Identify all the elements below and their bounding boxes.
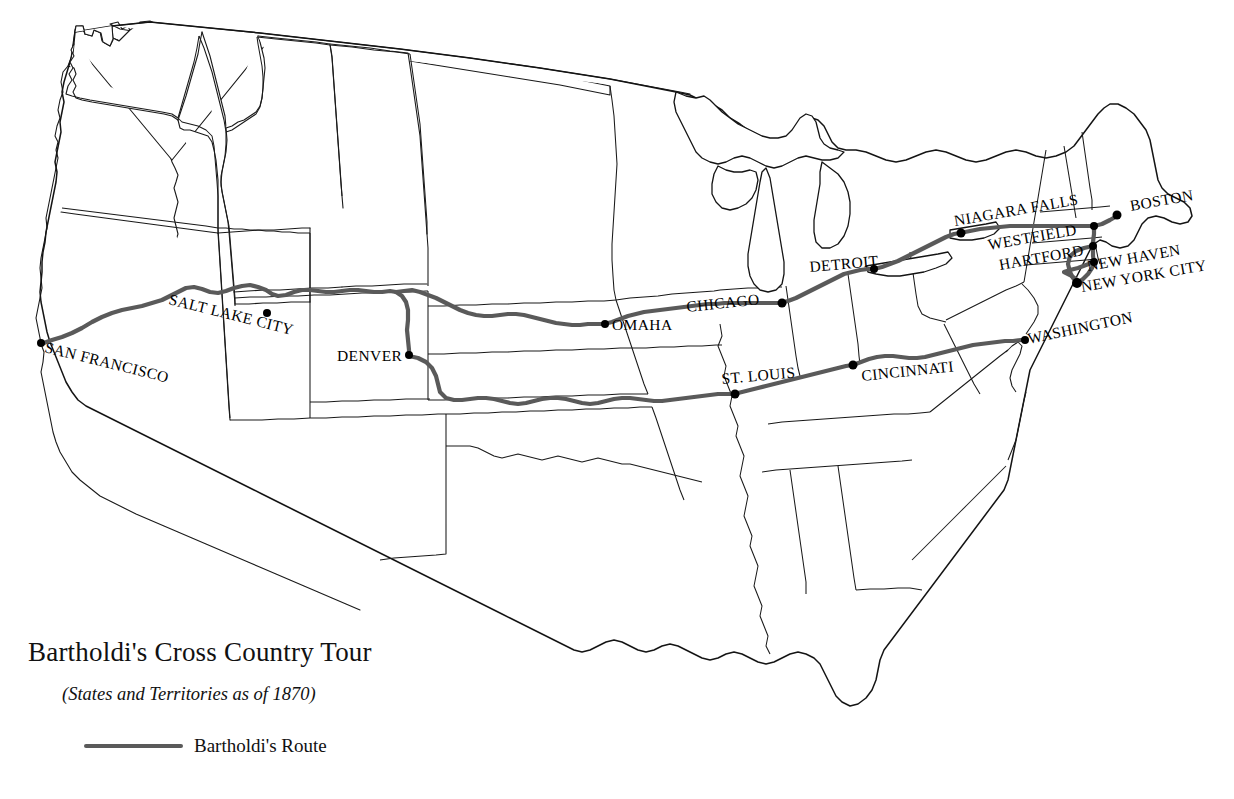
city-dot-omaha bbox=[601, 320, 609, 328]
city-dot-cincinnati bbox=[849, 361, 858, 370]
map-page: SAN FRANCISCO SALT LAKE CITY DENVER OMAH… bbox=[0, 0, 1234, 799]
route-denver-stlouis bbox=[409, 356, 734, 404]
city-label-cincinnati: CINCINNATI bbox=[861, 357, 955, 384]
city-label-omaha: OMAHA bbox=[612, 316, 673, 333]
city-dot-chicago bbox=[778, 299, 787, 308]
route-denver-omaha bbox=[396, 290, 604, 325]
city-label-boston: BOSTON bbox=[1129, 186, 1195, 214]
city-dot-niagara-falls bbox=[957, 229, 966, 238]
city-dot-boston bbox=[1113, 211, 1122, 220]
city-label-denver: DENVER bbox=[337, 347, 403, 364]
city-dot-denver bbox=[405, 351, 413, 359]
page-title: Bartholdi's Cross Country Tour bbox=[28, 637, 372, 668]
city-dot-westfield bbox=[1090, 222, 1098, 230]
usa-map-svg: SAN FRANCISCO SALT LAKE CITY DENVER OMAH… bbox=[0, 0, 1234, 799]
city-dot-st-louis bbox=[731, 390, 740, 399]
state-boundaries bbox=[36, 21, 1192, 706]
city-dot-san-francisco bbox=[37, 339, 45, 347]
city-label-washington: WASHINGTON bbox=[1026, 308, 1134, 347]
legend-route-label: Bartholdi's Route bbox=[194, 735, 327, 757]
city-dot-hartford bbox=[1089, 242, 1097, 250]
legend-route-swatch bbox=[84, 744, 183, 748]
page-subtitle: (States and Territories as of 1870) bbox=[62, 684, 316, 705]
city-label-chicago: CHICAGO bbox=[686, 290, 761, 315]
